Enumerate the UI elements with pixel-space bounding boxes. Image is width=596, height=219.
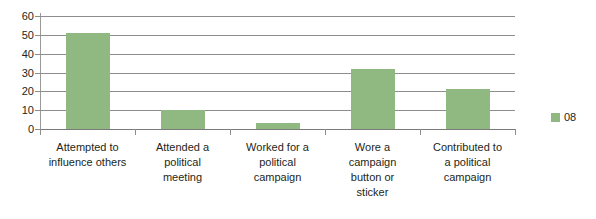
x-axis-label-line: Worked for a [230,140,325,155]
bar-slot [230,16,325,129]
y-tick-label: 60 [0,11,34,22]
bar [351,69,395,129]
legend-label-08: 08 [564,112,576,123]
x-axis-label-line: political [135,155,230,170]
x-axis-label-line: sticker [325,185,420,200]
x-axis-tick [230,129,231,135]
x-axis-label: Worked for apoliticalcampaign [230,140,325,185]
x-axis-label-line: campaign [420,170,515,185]
x-axis-tick [420,129,421,135]
y-tick-label: 40 [0,48,34,59]
x-axis-label-line: campaign [325,155,420,170]
x-axis-label-line: Contributed to [420,140,515,155]
x-axis-label: Attempted toinfluence others [40,140,135,170]
x-axis-label: Contributed toa politicalcampaign [420,140,515,185]
bar-chart: 0102030405060 Attempted toinfluence othe… [0,0,596,219]
x-axis-tick [40,129,41,135]
bar-slot [420,16,515,129]
y-tick-label: 20 [0,86,34,97]
y-axis-labels: 0102030405060 [0,0,34,134]
y-tick-label: 30 [0,67,34,78]
y-tick-label: 0 [0,124,34,135]
axis-baseline [40,129,515,130]
x-axis-label-line: Wore a [325,140,420,155]
y-tick-label: 50 [0,29,34,40]
x-axis-tick [515,129,516,135]
x-axis-label-line: button or [325,170,420,185]
x-axis-label-line: campaign [230,170,325,185]
legend-swatch-08 [551,113,560,122]
x-axis-labels: Attempted toinfluence othersAttended apo… [40,140,515,214]
x-axis-label-line: influence others [40,155,135,170]
legend: 08 [551,112,576,123]
bar-slot [40,16,135,129]
x-axis-label: Attended apoliticalmeeting [135,140,230,185]
bar [446,89,490,129]
bar [256,123,300,129]
x-axis-tick [325,129,326,135]
bar-series-08 [40,16,515,129]
y-tick-label: 10 [0,105,34,116]
x-axis-label-line: political [230,155,325,170]
x-axis-label-line: meeting [135,170,230,185]
x-axis-label-line: Attempted to [40,140,135,155]
x-axis-label-line: a political [420,155,515,170]
bar-slot [135,16,230,129]
bar [161,110,205,129]
x-axis-label-line: Attended a [135,140,230,155]
plot-area [40,16,515,129]
x-axis-label: Wore acampaignbutton orsticker [325,140,420,200]
bar [66,33,110,129]
x-axis-tick [135,129,136,135]
bar-slot [325,16,420,129]
